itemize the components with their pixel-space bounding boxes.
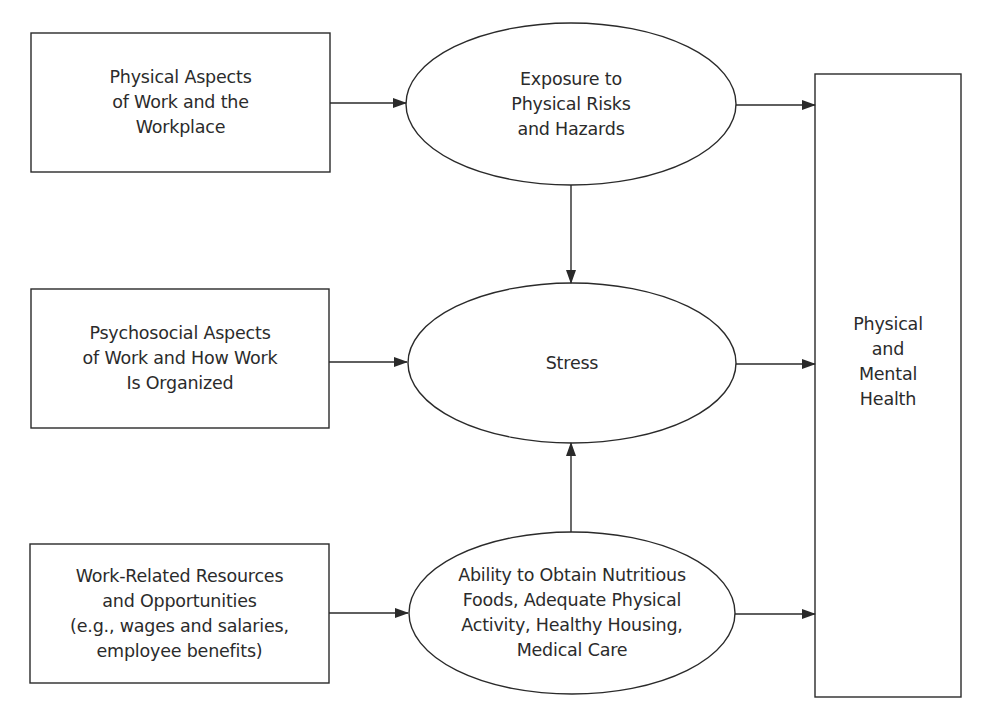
health-label: Physical and Mental Health: [815, 292, 961, 432]
exposure-label: Exposure to Physical Risks and Hazards: [440, 30, 702, 178]
stress-label: Stress: [440, 288, 704, 438]
psychosocial-aspects-label: Psychosocial Aspects of Work and How Wor…: [31, 289, 329, 428]
physical-aspects-label: Physical Aspects of Work and the Workpla…: [31, 33, 330, 172]
ability-label: Ability to Obtain Nutritious Foods, Adeq…: [420, 538, 724, 688]
work-resources-label: Work-Related Resources and Opportunities…: [30, 544, 329, 683]
